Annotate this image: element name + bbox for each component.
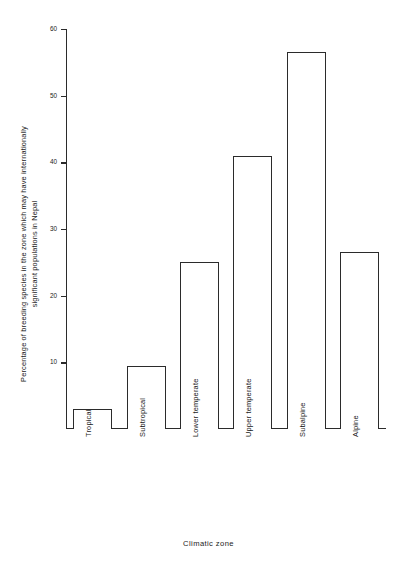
y-axis-tick-label: 20 xyxy=(50,292,57,298)
y-axis-tick xyxy=(61,29,66,30)
bar xyxy=(340,252,379,429)
y-axis-title-line-2: significant populations in Nepal xyxy=(29,74,40,434)
y-axis-tick-label: 40 xyxy=(50,159,57,165)
y-axis-tick-label: 30 xyxy=(50,226,57,232)
y-axis-tick xyxy=(61,162,66,163)
bar xyxy=(287,52,326,429)
plot-area: 102030405060 xyxy=(66,29,386,429)
x-axis-tick-label-text: Alpine xyxy=(352,415,360,437)
y-axis-tick xyxy=(61,362,66,363)
x-axis-tick-label-text: Upper temperate xyxy=(245,379,253,437)
x-axis-line xyxy=(66,428,386,429)
x-axis-title: Climatic zone xyxy=(0,539,417,548)
x-axis-tick-label-text: Tropical xyxy=(85,409,93,437)
x-axis-tick-label-text: Subalpine xyxy=(299,402,307,437)
y-axis-tick xyxy=(61,296,66,297)
x-axis-tick-label-text: Subtropical xyxy=(139,398,147,437)
y-axis-tick-label: 60 xyxy=(50,26,57,32)
x-axis-tick-label-text: Lower temperate xyxy=(192,379,200,437)
y-axis-line xyxy=(66,29,67,429)
y-axis-tick xyxy=(61,229,66,230)
y-axis-title-line-1: Percentage of breeding species in the zo… xyxy=(18,74,29,434)
y-axis-tick xyxy=(61,96,66,97)
bar-chart-figure: Percentage of breeding species in the zo… xyxy=(0,0,417,561)
y-axis-tick-label: 10 xyxy=(50,359,57,365)
y-axis-tick-label: 50 xyxy=(50,92,57,98)
y-axis-title: Percentage of breeding species in the zo… xyxy=(14,74,44,434)
